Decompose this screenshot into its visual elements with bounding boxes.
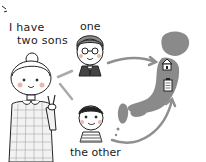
label-one: one bbox=[80, 20, 100, 33]
speech-text-line1: I have bbox=[9, 22, 45, 33]
building-icon bbox=[164, 78, 172, 91]
illustration: I have two sons one the other bbox=[0, 0, 206, 162]
pointer-line bbox=[58, 71, 72, 99]
arrow-icon bbox=[108, 57, 156, 65]
son-other-figure bbox=[79, 106, 103, 142]
decorative-mark bbox=[2, 6, 7, 12]
mother-figure bbox=[9, 53, 56, 162]
label-the-other: the other bbox=[70, 146, 121, 159]
son-one-figure bbox=[77, 36, 103, 76]
speech-text-line2: two sons bbox=[17, 35, 68, 46]
japan-map-icon bbox=[115, 32, 189, 137]
